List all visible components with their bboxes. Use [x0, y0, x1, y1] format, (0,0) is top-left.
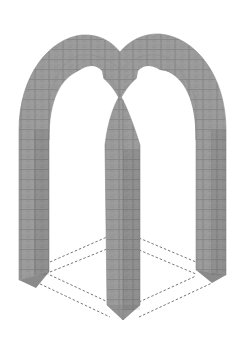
vault-drawing — [0, 0, 240, 343]
vault-illustration — [0, 0, 240, 343]
